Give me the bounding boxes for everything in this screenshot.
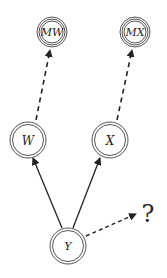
edge-y-to-x [73,158,100,228]
unknown-target-label: ? [142,200,155,228]
diagram-canvas: MW MX W X Y ? [0,0,167,278]
node-mw: MW [37,17,67,47]
edge-y-to-w [33,158,62,228]
node-mw-label: MW [40,26,65,39]
edge-x-to-mx [117,50,132,120]
diagram-svg: MW MX W X Y ? [0,0,167,278]
node-mx-label: MX [124,26,145,39]
edge-y-to-unknown [86,214,136,236]
node-x-label: X [105,134,115,148]
node-w-label: W [22,134,36,148]
node-y: Y [50,228,86,264]
node-mx: MX [120,17,150,47]
node-w: W [10,122,46,158]
node-x: X [92,122,128,158]
edge-w-to-mw [36,50,50,120]
